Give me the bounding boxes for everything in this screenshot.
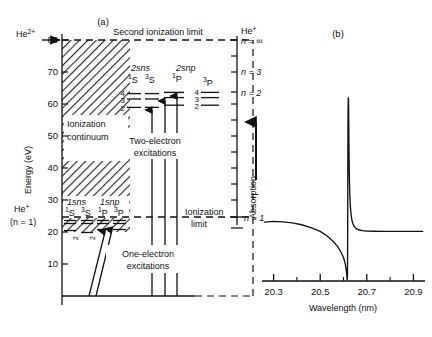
level-label-2snp-n2: 2 xyxy=(195,102,200,111)
energy-tick-50: 50 xyxy=(47,130,58,141)
heplus-left-sublabel: (n = 1) xyxy=(10,217,36,227)
continuum-label-line1: Ionization xyxy=(67,119,106,129)
series-2sns-label: 2sns xyxy=(130,63,151,73)
level-label-1snp-n2: 2 xyxy=(89,236,96,240)
energy-tick-30: 30 xyxy=(47,194,58,205)
heplus-n-infinity: n = ∞ xyxy=(241,36,263,46)
series-2snp-label: 2snp xyxy=(175,63,196,73)
ionization-limit-label-line2: limit xyxy=(191,219,207,229)
one-electron-label-line2: excitations xyxy=(127,261,170,271)
energy-tick-20: 20 xyxy=(47,226,58,237)
spectrum-xtick-20-5: 20.5 xyxy=(311,286,330,297)
spectrum-xtick-20-7: 20.7 xyxy=(358,286,377,297)
energy-axis-title: Energy (eV) xyxy=(23,146,33,194)
figure-svg: (a) Ionization continuum 80 70 60 50 40 … xyxy=(0,0,432,337)
continuum-label-line2: continuum xyxy=(67,132,109,142)
heplus-n-2: n = 2 xyxy=(241,88,261,98)
spectrum-xtick-20-3: 20.3 xyxy=(264,286,283,297)
spectrum-xlabel: Wavelength (nm) xyxy=(309,303,377,313)
energy-tick-70: 70 xyxy=(47,66,58,77)
heplus-n-3: n = 3 xyxy=(241,67,261,77)
energy-tick-10: 10 xyxy=(47,258,58,269)
energy-tick-40: 40 xyxy=(47,162,58,173)
panel-a-label: (a) xyxy=(97,16,109,27)
second-ionization-limit-label: Second ionization limit xyxy=(113,27,203,37)
ionization-limit-label-line1: Ionization xyxy=(185,207,224,217)
level-label-1sns-n2: 2 xyxy=(72,236,79,240)
spectrum-xtick-20-9: 20.9 xyxy=(404,286,423,297)
level-label-2sns-n2: 2 xyxy=(121,104,126,113)
panel-b-label: (b) xyxy=(332,28,344,39)
energy-tick-60: 60 xyxy=(47,98,58,109)
figure-container: (a) Ionization continuum 80 70 60 50 40 … xyxy=(0,0,432,337)
one-electron-label-line1: One-electron xyxy=(122,249,174,259)
two-electron-label-line2: excitations xyxy=(134,148,177,158)
two-electron-label-line1: Two-electron xyxy=(129,136,181,146)
absorption-label: Absorption xyxy=(248,176,258,219)
